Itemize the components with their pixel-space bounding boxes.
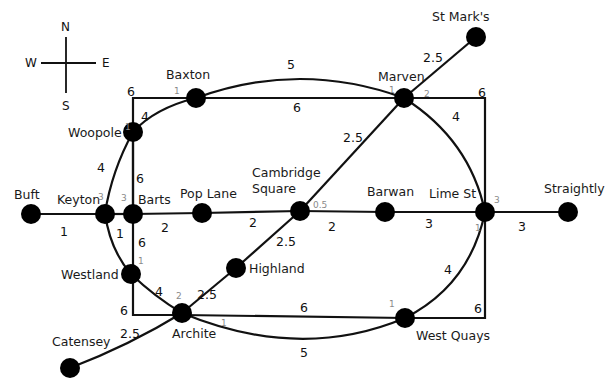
- label-cambridge: Cambridge: [252, 165, 321, 180]
- degree-cambridge-square: 0.5: [313, 200, 327, 210]
- weight-baxton-marven-curve: 5: [287, 57, 295, 72]
- label-barwan: Barwan: [367, 184, 414, 199]
- node-lime-st[interactable]: [475, 202, 495, 222]
- degree-lime-st-bottom: 1: [475, 223, 481, 233]
- weight-corner-tr: 6: [478, 85, 486, 100]
- weight-archite-catensey: 2.5: [120, 326, 140, 341]
- weight-barts-poplane: 2: [161, 220, 169, 235]
- weight-limest-westquays: 4: [444, 262, 452, 277]
- node-straightly[interactable]: [558, 202, 578, 222]
- graph-diagram: N W E S: [0, 0, 615, 390]
- label-barts: Barts: [138, 192, 171, 207]
- node-highland[interactable]: [226, 258, 246, 278]
- node-keyton[interactable]: [95, 204, 115, 224]
- node-baxton[interactable]: [186, 88, 206, 108]
- degree-baxton: 1: [174, 86, 180, 96]
- weight-archite-westquays-straight: 6: [300, 300, 308, 315]
- degree-westland: 1: [138, 256, 144, 266]
- label-lime-st: Lime St: [429, 186, 476, 201]
- degree-lime-st-top: 3: [494, 195, 500, 205]
- node-archite[interactable]: [172, 303, 192, 323]
- degree-barts: 3: [121, 193, 127, 203]
- degree-west-quays: 1: [389, 299, 395, 309]
- label-st-marks: St Mark's: [432, 9, 490, 24]
- node-catensey[interactable]: [60, 358, 80, 378]
- compass-north: N: [61, 20, 70, 34]
- weight-marven-limest: 4: [452, 109, 460, 124]
- weight-cambridge-highland: 2.5: [276, 234, 296, 249]
- label-archite: Archite: [172, 326, 217, 341]
- weight-barts-westland: 6: [138, 235, 146, 250]
- label-straightly: Straightly: [544, 181, 605, 196]
- weight-archite-westquays-curve: 5: [300, 345, 308, 360]
- compass-east: E: [102, 56, 110, 70]
- node-st-marks[interactable]: [466, 27, 486, 47]
- degree-archite-top: 2: [176, 291, 182, 301]
- degree-marven-right: 2: [424, 89, 430, 99]
- weight-buft-keyton: 1: [60, 224, 68, 239]
- weight-baxton-marven-straight: 6: [293, 100, 301, 115]
- weight-corner-bl: 6: [120, 303, 128, 318]
- label-westland: Westland: [61, 267, 119, 282]
- weight-barwan-limest: 3: [425, 216, 433, 231]
- label-buft: Buft: [14, 187, 40, 202]
- weight-woopole-keyton: 4: [97, 160, 105, 175]
- weight-poplane-cambridge: 2: [249, 215, 257, 230]
- degree-archite-right: 1: [221, 318, 227, 328]
- label-catensey: Catensey: [52, 334, 111, 349]
- weight-cambridge-barwan: 2: [328, 219, 336, 234]
- label-square: Square: [252, 181, 296, 196]
- weight-highland-archite: 2.5: [197, 287, 217, 302]
- node-west-quays[interactable]: [395, 308, 415, 328]
- weight-corner-tl: 6: [127, 84, 135, 99]
- compass-west: W: [25, 56, 37, 70]
- label-baxton: Baxton: [166, 67, 210, 82]
- label-woopole: Woopole: [68, 125, 122, 140]
- degree-marven-left: 1: [389, 85, 395, 95]
- degree-woopole: 1: [125, 122, 131, 132]
- weight-westland-archite: 4: [155, 284, 163, 299]
- node-barts[interactable]: [123, 204, 143, 224]
- compass-south: S: [62, 99, 70, 113]
- weight-limest-straightly: 3: [518, 219, 526, 234]
- weight-woopole-barts: 6: [136, 171, 144, 186]
- node-buft[interactable]: [21, 204, 41, 224]
- weight-keyton-barts: 1: [116, 226, 124, 241]
- weight-marven-stmarks: 2.5: [423, 50, 443, 65]
- label-west-quays: West Quays: [416, 328, 490, 343]
- weight-corner-br: 6: [474, 301, 482, 316]
- weight-cambridge-marven: 2.5: [343, 130, 363, 145]
- node-pop-lane[interactable]: [192, 203, 212, 223]
- label-marven: Marven: [378, 69, 425, 84]
- label-highland: Highland: [249, 261, 305, 276]
- weight-woopole-baxton: 4: [141, 109, 149, 124]
- node-westland[interactable]: [121, 264, 141, 284]
- label-keyton: Keyton: [57, 192, 100, 207]
- node-barwan[interactable]: [375, 202, 395, 222]
- node-marven[interactable]: [394, 88, 414, 108]
- degree-keyton: 3: [98, 192, 104, 202]
- node-cambridge-square[interactable]: [290, 201, 310, 221]
- compass-rose: N W E S: [25, 20, 110, 113]
- label-pop-lane: Pop Lane: [180, 186, 237, 201]
